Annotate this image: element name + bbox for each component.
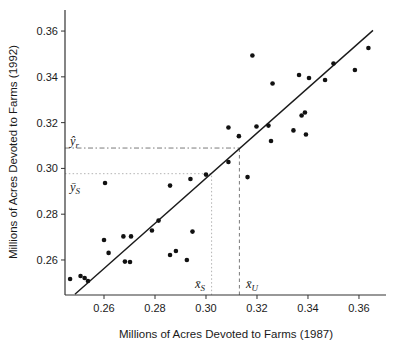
scatter-point bbox=[168, 253, 173, 258]
scatter-point bbox=[150, 228, 155, 233]
scatter-point bbox=[245, 175, 250, 180]
scatter-points bbox=[68, 46, 371, 284]
scatter-point bbox=[106, 251, 111, 256]
scatter-point bbox=[68, 277, 73, 282]
scatter-point bbox=[129, 234, 134, 239]
scatter-point bbox=[190, 229, 195, 234]
y-tick-label: 0.28 bbox=[37, 208, 58, 220]
plot-canvas: 0.260.280.300.320.340.360.260.280.300.32… bbox=[0, 0, 394, 360]
scatter-point bbox=[128, 260, 133, 265]
x-tick-label: 0.32 bbox=[246, 302, 267, 314]
scatter-point bbox=[237, 134, 242, 139]
regression-line-segment bbox=[75, 30, 373, 294]
scatter-point bbox=[291, 128, 296, 133]
scatter-point bbox=[270, 81, 275, 86]
scatter-point bbox=[168, 183, 173, 188]
scatter-point bbox=[174, 249, 179, 254]
scatter-point bbox=[121, 234, 126, 239]
scatter-point bbox=[323, 78, 328, 83]
scatter-point bbox=[204, 172, 209, 177]
regression-line bbox=[75, 30, 373, 294]
y-tick-label: 0.36 bbox=[37, 25, 58, 37]
y-tick-label: 0.32 bbox=[37, 117, 58, 129]
scatter-point bbox=[304, 132, 309, 137]
scatter-point bbox=[331, 61, 336, 66]
scatter-point bbox=[156, 218, 161, 223]
scatter-point bbox=[78, 274, 83, 279]
x-tick-label: 0.36 bbox=[348, 302, 369, 314]
scatter-point bbox=[185, 258, 190, 263]
y-tick-label: 0.30 bbox=[37, 162, 58, 174]
x-tick-label: 0.30 bbox=[195, 302, 216, 314]
scatter-point bbox=[102, 238, 107, 243]
scatter-point bbox=[86, 279, 91, 284]
y-tick-label: 0.26 bbox=[37, 254, 58, 266]
scatter-point bbox=[123, 259, 128, 264]
y-bar-s-label: ȳS bbox=[68, 180, 81, 196]
scatter-point bbox=[307, 76, 312, 81]
scatter-point bbox=[254, 124, 259, 129]
scatter-point bbox=[353, 68, 358, 73]
scatter-point bbox=[366, 46, 371, 51]
x-tick-label: 0.26 bbox=[93, 302, 114, 314]
scatter-point bbox=[269, 139, 274, 144]
scatter-point bbox=[188, 177, 193, 182]
x-bar-s-label: x̄S bbox=[194, 277, 206, 293]
reference-lines bbox=[65, 148, 239, 295]
x-tick-label: 0.34 bbox=[297, 302, 318, 314]
scatter-point bbox=[250, 53, 255, 58]
scatter-point bbox=[303, 110, 308, 115]
x-axis-title: Millions of Acres Devoted to Farms (1987… bbox=[119, 328, 333, 340]
scatter-point bbox=[226, 125, 231, 130]
x-bar-u-label: x̄U bbox=[245, 277, 259, 293]
scatter-point bbox=[103, 181, 108, 186]
scatter-point bbox=[297, 73, 302, 78]
scatter-point bbox=[266, 123, 271, 128]
scatter-point bbox=[226, 160, 231, 165]
y-axis-title: Millions of Acres Devoted to Farms (1992… bbox=[7, 45, 19, 259]
scatter-plot-figure: 0.260.280.300.320.340.360.260.280.300.32… bbox=[0, 0, 394, 360]
y-hat-r-label: ŷr bbox=[68, 134, 80, 150]
y-tick-label: 0.34 bbox=[37, 71, 58, 83]
x-tick-label: 0.28 bbox=[144, 302, 165, 314]
